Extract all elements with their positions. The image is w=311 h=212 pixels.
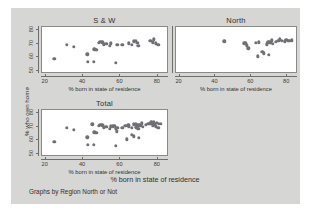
y-axis-tick (36, 139, 38, 140)
x-axis-tick-label: 40 (211, 78, 217, 84)
y-axis-tick-label: 80 (28, 107, 34, 117)
x-axis-tick-label: 20 (42, 161, 48, 167)
y-axis-tick-label: 60 (28, 134, 34, 144)
x-axis-tick-label: 60 (247, 78, 253, 84)
x-axis-tick-label: 20 (175, 78, 181, 84)
y-axis-tick (36, 70, 38, 71)
x-axis-tick-label: 80 (154, 78, 160, 84)
x-axis-tick (286, 74, 287, 76)
x-axis-tick (82, 74, 83, 76)
data-point (132, 135, 135, 138)
panel-title-north: North (175, 16, 297, 25)
panel-title-sw: S & W (41, 16, 168, 25)
data-point (246, 47, 249, 50)
y-axis-tick (36, 112, 38, 113)
data-point (65, 43, 68, 46)
scatter-panel-sw (41, 26, 168, 73)
data-point (130, 43, 133, 46)
data-point (86, 136, 89, 139)
data-point (257, 41, 260, 44)
data-point (95, 48, 98, 51)
data-point (125, 137, 128, 140)
data-point (86, 60, 89, 63)
data-point (262, 52, 265, 55)
x-axis-tick (157, 157, 158, 159)
data-point (156, 126, 159, 129)
x-axis-tick (157, 74, 158, 76)
y-axis-tick-label: 60 (28, 51, 34, 61)
data-point (86, 143, 89, 146)
scatter-panel-north (175, 26, 297, 73)
data-point (121, 43, 124, 46)
data-point (72, 128, 75, 131)
y-axis-tick-label: 80 (28, 24, 34, 34)
x-axis-tick-label: 40 (79, 78, 85, 84)
data-point (72, 45, 75, 48)
x-axis-tick-label: 20 (42, 78, 48, 84)
x-axis-tick (45, 74, 46, 76)
x-axis-tick (119, 157, 120, 159)
data-point (91, 123, 94, 126)
x-axis-tick-label: 80 (283, 78, 289, 84)
x-axis-tick (179, 74, 180, 76)
x-axis-caption-sw: % born in state of residence (69, 86, 141, 92)
data-point (256, 54, 259, 57)
data-point (136, 127, 139, 130)
y-axis-line (38, 26, 39, 73)
data-point (52, 140, 55, 143)
y-axis-line (38, 109, 39, 156)
x-axis-tick (45, 157, 46, 159)
data-point (95, 131, 98, 134)
x-axis-line (41, 159, 168, 160)
data-point (86, 53, 89, 56)
figure-canvas: % who own home S & W 2040608050607080 % … (11, 8, 300, 204)
data-point (136, 44, 139, 47)
x-axis-tick-label: 60 (116, 78, 122, 84)
overall-x-axis-label: % born in state of residence (110, 175, 199, 184)
x-axis-tick-label: 40 (79, 161, 85, 167)
x-axis-tick (82, 157, 83, 159)
graphs-by-note: Graphs by Region North or Not (29, 188, 117, 195)
x-axis-caption-north: % born in state of residence (200, 86, 272, 92)
data-point (92, 143, 95, 146)
data-point (159, 122, 162, 125)
y-axis-tick-label: 70 (28, 38, 34, 48)
data-point (223, 40, 226, 43)
x-axis-tick-label: 60 (116, 161, 122, 167)
data-point (115, 130, 118, 133)
y-axis-tick (36, 56, 38, 57)
data-point (290, 38, 293, 41)
y-axis-tick-label: 50 (28, 65, 34, 75)
y-axis-tick-label: 70 (28, 121, 34, 131)
x-axis-tick (214, 74, 215, 76)
data-point (114, 61, 117, 64)
scatter-panel-total (41, 109, 168, 156)
data-point (65, 126, 68, 129)
y-axis-line (172, 26, 173, 73)
y-axis-tick-label: 50 (28, 148, 34, 158)
data-point (52, 57, 55, 60)
data-point (92, 60, 95, 63)
data-point (116, 126, 119, 129)
panel-title-total: Total (41, 99, 168, 108)
x-axis-tick (119, 74, 120, 76)
data-point (130, 126, 133, 129)
y-axis-tick (36, 153, 38, 154)
x-axis-tick-label: 80 (154, 161, 160, 167)
x-axis-line (41, 76, 168, 77)
data-point (116, 43, 119, 46)
data-point (114, 144, 117, 147)
data-point (267, 53, 270, 56)
y-axis-tick (36, 29, 38, 30)
x-axis-line (175, 76, 297, 77)
data-point (137, 136, 140, 139)
data-point (109, 42, 112, 45)
x-axis-tick (250, 74, 251, 76)
data-point (156, 43, 159, 46)
y-axis-tick (36, 126, 38, 127)
y-axis-tick (36, 43, 38, 44)
